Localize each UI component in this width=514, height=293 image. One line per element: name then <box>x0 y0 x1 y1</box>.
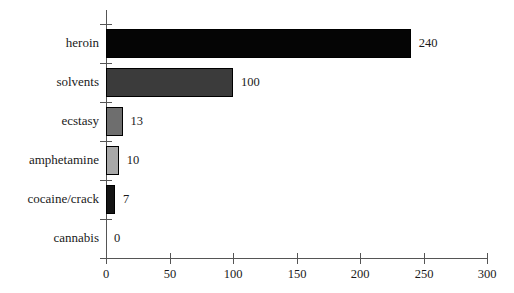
bar-value-amphetamine: 10 <box>127 153 140 167</box>
x-axis-tick-label: 100 <box>213 267 253 281</box>
y-axis-label-ecstasy: ecstasy <box>0 114 99 128</box>
bar-value-solvents: 100 <box>241 75 260 89</box>
x-axis-tick <box>233 253 234 264</box>
bar-cocaine-crack <box>106 185 115 214</box>
y-axis-label-cannabis: cannabis <box>0 231 99 245</box>
x-axis-tick <box>297 253 298 264</box>
x-axis-tick <box>106 253 107 264</box>
x-axis-tick <box>424 253 425 264</box>
bar-value-heroin: 240 <box>419 36 438 50</box>
y-axis-tick <box>100 102 112 103</box>
x-axis-tick <box>360 253 361 264</box>
bar-amphetamine <box>106 146 119 175</box>
y-axis-label-heroin: heroin <box>0 36 99 50</box>
x-axis-tick <box>487 253 488 264</box>
bar-ecstasy <box>106 107 123 136</box>
bar-value-cannabis: 0 <box>114 231 120 245</box>
x-axis-tick-label: 150 <box>277 267 317 281</box>
bar-value-ecstasy: 13 <box>131 114 144 128</box>
bar-chart: heroin 240 solvents 100 ecstasy 13 amphe… <box>0 0 514 293</box>
y-axis-label-cocaine-crack: cocaine/crack <box>0 192 99 206</box>
bar-solvents <box>106 68 233 97</box>
bar-heroin <box>106 29 411 58</box>
x-axis-tick-label: 200 <box>340 267 380 281</box>
x-axis-tick-label: 50 <box>150 267 190 281</box>
y-axis-tick <box>100 180 112 181</box>
y-axis-tick <box>100 24 112 25</box>
x-axis-tick-label: 250 <box>404 267 444 281</box>
y-axis-tick <box>100 141 112 142</box>
x-axis-tick-label: 0 <box>86 267 126 281</box>
y-axis-tick <box>100 219 112 220</box>
y-axis-tick <box>100 63 112 64</box>
y-axis-label-solvents: solvents <box>0 75 99 89</box>
bar-value-cocaine-crack: 7 <box>123 192 129 206</box>
y-axis-label-amphetamine: amphetamine <box>0 153 99 167</box>
x-axis-tick <box>170 253 171 264</box>
x-axis-tick-label: 300 <box>467 267 507 281</box>
